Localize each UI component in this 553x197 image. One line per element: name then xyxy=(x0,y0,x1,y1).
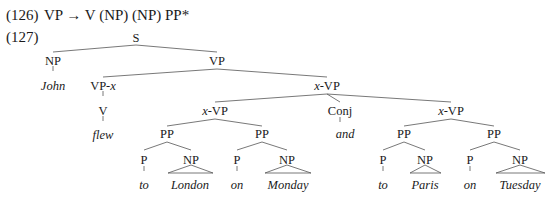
leaf-Paris: Paris xyxy=(410,178,438,192)
node-P-4: P xyxy=(467,153,474,167)
leaf-to-2: to xyxy=(378,178,388,192)
paper-page: (126) VP → V (NP) (NP) PP* (127) xyxy=(0,0,553,197)
node-NP-2: NP xyxy=(279,153,295,167)
node-NP-1: NP xyxy=(183,153,199,167)
node-VP: VP xyxy=(209,54,225,68)
node-PP-1: PP xyxy=(160,127,174,141)
node-P-1: P xyxy=(141,153,148,167)
leaf-Tuesday: Tuesday xyxy=(500,178,541,192)
node-NP-4: NP xyxy=(512,153,528,167)
node-NP-subject: NP xyxy=(45,54,61,68)
node-xVP-top: x-VP xyxy=(313,79,340,93)
node-PP-2: PP xyxy=(255,127,269,141)
node-PP-4: PP xyxy=(487,127,501,141)
leaf-John: John xyxy=(41,79,65,93)
leaf-on-1: on xyxy=(231,178,244,192)
node-xVP-right: x-VP xyxy=(437,104,464,118)
node-P-2: P xyxy=(234,153,241,167)
node-Conj: Conj xyxy=(328,104,352,118)
node-VP-x: VP-x xyxy=(90,79,116,93)
leaf-to-1: to xyxy=(139,178,149,192)
node-S: S xyxy=(133,31,140,45)
leaf-and: and xyxy=(336,127,356,141)
node-NP-3: NP xyxy=(417,153,433,167)
leaf-Monday: Monday xyxy=(267,178,309,192)
leaf-flew: flew xyxy=(93,128,114,142)
node-xVP-left: x-VP xyxy=(201,104,228,118)
syntax-tree: S NP John VP VP-x V flew x-VP x-VP Conj … xyxy=(0,0,553,197)
leaf-on-2: on xyxy=(464,178,477,192)
node-P-3: P xyxy=(380,153,387,167)
node-PP-3: PP xyxy=(397,127,411,141)
node-V: V xyxy=(98,104,107,118)
leaf-London: London xyxy=(170,178,209,192)
